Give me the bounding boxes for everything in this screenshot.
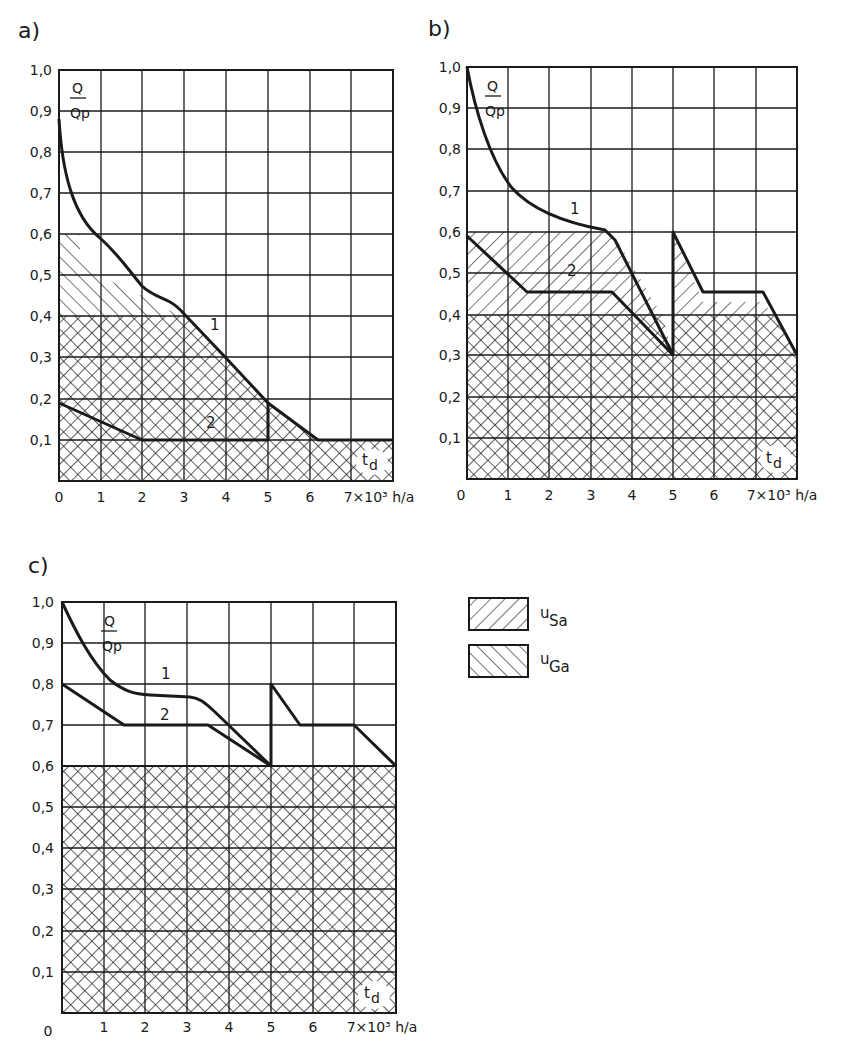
chart-a: a) 1 2 Q Qp t d bbox=[18, 18, 414, 505]
svg-text:Qp: Qp bbox=[70, 105, 90, 121]
curve-label-2-b: 2 bbox=[567, 262, 577, 280]
svg-text:0,7: 0,7 bbox=[439, 183, 461, 199]
curve-label-1-a: 1 bbox=[210, 316, 220, 334]
td-label-c: t d bbox=[358, 981, 390, 1009]
svg-text:Qp: Qp bbox=[102, 638, 122, 654]
svg-text:0,3: 0,3 bbox=[439, 347, 461, 363]
svg-text:0,6: 0,6 bbox=[439, 224, 461, 240]
svg-text:5: 5 bbox=[267, 1019, 276, 1035]
svg-text:3: 3 bbox=[180, 489, 189, 505]
svg-text:d: d bbox=[773, 455, 782, 471]
svg-text:d: d bbox=[371, 990, 380, 1006]
svg-text:1,0: 1,0 bbox=[30, 62, 52, 78]
svg-text:5: 5 bbox=[264, 489, 273, 505]
svg-text:0,1: 0,1 bbox=[32, 964, 54, 980]
svg-text:Q: Q bbox=[487, 78, 498, 94]
svg-text:4: 4 bbox=[628, 487, 637, 503]
svg-text:0,8: 0,8 bbox=[30, 144, 52, 160]
svg-text:0,1: 0,1 bbox=[30, 432, 52, 448]
svg-text:0,3: 0,3 bbox=[30, 349, 52, 365]
curve-label-2-c: 2 bbox=[160, 706, 170, 724]
svg-text:0: 0 bbox=[457, 487, 466, 503]
panel-label-a: a) bbox=[18, 18, 40, 43]
svg-text:0,6: 0,6 bbox=[32, 758, 54, 774]
svg-text:5: 5 bbox=[669, 487, 678, 503]
x-axis-c: 0 1 2 3 4 5 6 7×10³ h/a bbox=[44, 1019, 418, 1039]
svg-text:0,3: 0,3 bbox=[32, 881, 54, 897]
svg-text:0,8: 0,8 bbox=[439, 141, 461, 157]
panel-label-c: c) bbox=[28, 553, 49, 578]
svg-text:0,5: 0,5 bbox=[32, 799, 54, 815]
svg-text:0,4: 0,4 bbox=[30, 308, 52, 324]
svg-text:t: t bbox=[364, 984, 370, 1002]
svg-text:1: 1 bbox=[504, 487, 513, 503]
svg-text:0,1: 0,1 bbox=[439, 430, 461, 446]
legend-swatch-uga bbox=[469, 645, 528, 677]
svg-text:7×10³ h/a: 7×10³ h/a bbox=[747, 487, 818, 503]
y-axis-a: 1,0 0,9 0,8 0,7 0,6 0,5 0,4 0,3 0,2 0,1 bbox=[30, 62, 52, 448]
legend-item-uga: u Ga bbox=[469, 645, 570, 677]
legend-swatch-usa bbox=[469, 598, 528, 630]
svg-text:0,6: 0,6 bbox=[30, 226, 52, 242]
curve-label-1-b: 1 bbox=[570, 200, 580, 218]
svg-text:t: t bbox=[362, 451, 368, 469]
svg-text:0: 0 bbox=[44, 1023, 53, 1039]
svg-text:4: 4 bbox=[225, 1019, 234, 1035]
panel-label-b: b) bbox=[428, 16, 451, 41]
svg-text:6: 6 bbox=[306, 489, 315, 505]
td-label-a: t d bbox=[356, 449, 388, 475]
svg-text:0,5: 0,5 bbox=[30, 267, 52, 283]
svg-text:Sa: Sa bbox=[549, 612, 568, 630]
svg-text:7×10³ h/a: 7×10³ h/a bbox=[344, 489, 415, 505]
svg-text:4: 4 bbox=[222, 489, 231, 505]
svg-text:1,0: 1,0 bbox=[439, 59, 461, 75]
svg-text:Q: Q bbox=[72, 80, 83, 96]
y-axis-c: 1,0 0,9 0,8 0,7 0,6 0,5 0,4 0,3 0,2 0,1 bbox=[32, 594, 54, 980]
svg-text:2: 2 bbox=[545, 487, 554, 503]
svg-text:0,9: 0,9 bbox=[30, 103, 52, 119]
svg-text:0,5: 0,5 bbox=[439, 265, 461, 281]
svg-text:Q: Q bbox=[104, 613, 115, 629]
legend: u Sa u Ga bbox=[469, 598, 570, 677]
svg-text:1: 1 bbox=[97, 489, 106, 505]
svg-text:6: 6 bbox=[710, 487, 719, 503]
figure: a) 1 2 Q Qp t d bbox=[0, 0, 844, 1056]
y-axis-b: 1,0 0,9 0,8 0,7 0,6 0,5 0,4 0,3 0,2 0,1 bbox=[439, 59, 461, 446]
svg-text:2: 2 bbox=[141, 1019, 150, 1035]
legend-item-usa: u Sa bbox=[469, 598, 568, 630]
svg-text:2: 2 bbox=[138, 489, 147, 505]
svg-text:0,9: 0,9 bbox=[32, 635, 54, 651]
svg-text:0,2: 0,2 bbox=[30, 391, 52, 407]
chart-b: b) 1 2 Q Qp t d 1,0 bbox=[428, 16, 817, 503]
curve-label-2-a: 2 bbox=[206, 414, 216, 432]
svg-text:0,2: 0,2 bbox=[32, 923, 54, 939]
svg-text:Ga: Ga bbox=[549, 658, 570, 676]
svg-text:7×10³ h/a: 7×10³ h/a bbox=[347, 1019, 418, 1035]
svg-text:0,7: 0,7 bbox=[32, 717, 54, 733]
svg-text:t: t bbox=[766, 449, 772, 467]
svg-text:1,0: 1,0 bbox=[32, 594, 54, 610]
svg-text:0,8: 0,8 bbox=[32, 676, 54, 692]
svg-text:0,2: 0,2 bbox=[439, 389, 461, 405]
x-axis-a: 0 1 2 3 4 5 6 7×10³ h/a bbox=[55, 489, 415, 505]
svg-text:0,9: 0,9 bbox=[439, 100, 461, 116]
td-label-b: t d bbox=[760, 445, 792, 473]
svg-text:Qp: Qp bbox=[485, 103, 505, 119]
ylabel-q-qp-a: Q Qp bbox=[70, 80, 90, 121]
svg-text:0,7: 0,7 bbox=[30, 185, 52, 201]
svg-text:0: 0 bbox=[55, 489, 64, 505]
svg-text:3: 3 bbox=[183, 1019, 192, 1035]
svg-text:d: d bbox=[369, 457, 378, 473]
chart-c: c) 1 2 Q Qp t d 1,0 bbox=[28, 553, 417, 1039]
svg-text:0,4: 0,4 bbox=[32, 840, 54, 856]
svg-text:0,4: 0,4 bbox=[439, 307, 461, 323]
x-axis-b: 0 1 2 3 4 5 6 7×10³ h/a bbox=[457, 487, 818, 503]
ylabel-q-qp-b: Q Qp bbox=[485, 78, 505, 119]
svg-text:6: 6 bbox=[309, 1019, 318, 1035]
curve-label-1-c: 1 bbox=[161, 665, 171, 683]
svg-text:3: 3 bbox=[587, 487, 596, 503]
svg-text:1: 1 bbox=[100, 1019, 109, 1035]
